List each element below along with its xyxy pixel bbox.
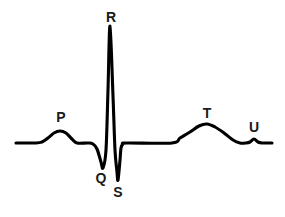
- ecg-waveform-svg: PQRSTU: [0, 0, 285, 217]
- wave-label-t: T: [203, 105, 212, 121]
- wave-label-u: U: [249, 119, 259, 135]
- ecg-waveform-figure: PQRSTU: [0, 0, 285, 217]
- wave-label-group: PQRSTU: [56, 9, 259, 200]
- wave-label-p: P: [56, 109, 65, 125]
- ecg-trace-path: [16, 26, 272, 180]
- wave-label-s: S: [113, 184, 122, 200]
- wave-label-q: Q: [96, 170, 107, 186]
- wave-label-r: R: [106, 9, 116, 25]
